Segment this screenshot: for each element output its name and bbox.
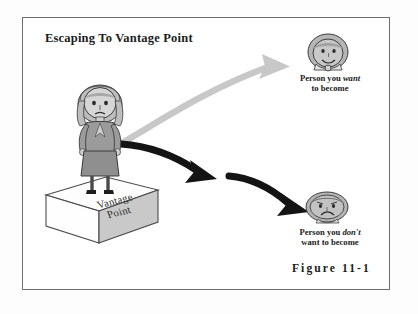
desired-self-label-line2: to become xyxy=(312,83,349,93)
undesired-self-label-prefix: Person you xyxy=(299,227,342,237)
arrow-to-undesired-self-segment-1 xyxy=(121,144,217,183)
woman-on-vantage-point xyxy=(77,85,123,194)
undesired-self-label: Person you don't want to become xyxy=(268,227,392,247)
figure-page: Escaping To Vantage Point xyxy=(0,0,418,314)
arrow-to-undesired-self-segment-2 xyxy=(229,176,309,216)
figure-number-caption: Figure 11-1 xyxy=(292,262,371,274)
arrow-to-desired-self xyxy=(118,54,290,145)
undesired-self-label-line2: want to become xyxy=(301,237,358,247)
undesired-self-label-emphasis: don't xyxy=(342,227,360,237)
desired-self-label-emphasis: want xyxy=(343,73,360,83)
desired-self-label-prefix: Person you xyxy=(300,73,343,83)
desired-self-head xyxy=(308,34,348,71)
undesired-self-head xyxy=(306,192,348,223)
desired-self-label: Person you want to become xyxy=(272,73,388,93)
